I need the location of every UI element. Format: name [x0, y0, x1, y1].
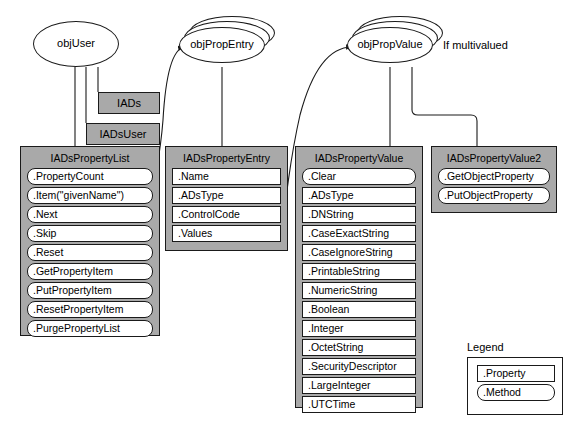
interface-title: IADsPropertyEntry — [172, 152, 281, 164]
interface-box-iadspropertylist[interactable]: IADsPropertyList .PropertyCount .Item("g… — [20, 146, 160, 336]
member-item[interactable]: .PurgePropertyList — [27, 320, 153, 337]
interface-title: IADsPropertyValue2 — [438, 152, 550, 164]
interface-title: IADsPropertyValue — [302, 152, 416, 164]
object-node-label: objPropEntry — [179, 38, 265, 50]
interface-box-iadspropertyvalue[interactable]: IADsPropertyValue .Clear .ADsType .DNStr… — [295, 146, 423, 408]
object-node-objuser[interactable]: objUser — [33, 21, 119, 67]
member-item[interactable]: .DNString — [302, 206, 416, 223]
member-item[interactable]: .Name — [172, 168, 281, 185]
interface-box-iadspropertyentry[interactable]: IADsPropertyEntry .Name .ADsType .Contro… — [165, 146, 288, 251]
member-item[interactable]: .ADsType — [302, 187, 416, 204]
legend-item-property: .Property — [477, 365, 555, 382]
member-item[interactable]: .PropertyCount — [27, 168, 153, 185]
member-item[interactable]: .Next — [27, 206, 153, 223]
member-item[interactable]: .Integer — [302, 320, 416, 337]
member-item[interactable]: .GetObjectProperty — [438, 168, 550, 185]
member-item[interactable]: .ADsType — [172, 187, 281, 204]
member-item[interactable]: .GetPropertyItem — [27, 263, 153, 280]
member-item[interactable]: .PrintableString — [302, 263, 416, 280]
member-item[interactable]: .Item("givenName") — [27, 187, 153, 204]
diagram-canvas: objUser objPropEntry objPropValue If mul… — [0, 0, 570, 428]
member-item[interactable]: .PutObjectProperty — [438, 187, 550, 204]
member-item[interactable]: .ControlCode — [172, 206, 281, 223]
member-item[interactable]: .CaseExactString — [302, 225, 416, 242]
member-item[interactable]: .ResetPropertyItem — [27, 301, 153, 318]
interface-box-label: IADs — [117, 97, 141, 109]
member-item[interactable]: .UTCTime — [302, 396, 416, 413]
interface-box-iads[interactable]: IADs — [98, 92, 160, 114]
member-item[interactable]: .Values — [172, 225, 281, 242]
member-item[interactable]: .SecurityDescriptor — [302, 358, 416, 375]
member-item[interactable]: .PutPropertyItem — [27, 282, 153, 299]
interface-box-label: IADsUser — [99, 128, 146, 140]
object-node-objpropvalue[interactable]: objPropValue — [347, 16, 443, 67]
legend-box: .Property .Method — [467, 357, 563, 415]
member-item[interactable]: .LargeInteger — [302, 377, 416, 394]
interface-box-iadsuser[interactable]: IADsUser — [86, 123, 160, 145]
member-item[interactable]: .Clear — [302, 168, 416, 185]
member-item[interactable]: .CaseIgnoreString — [302, 244, 416, 261]
member-item[interactable]: .Boolean — [302, 301, 416, 318]
member-item[interactable]: .NumericString — [302, 282, 416, 299]
interface-title: IADsPropertyList — [27, 152, 153, 164]
interface-box-iadspropertyvalue2[interactable]: IADsPropertyValue2 .GetObjectProperty .P… — [431, 146, 557, 213]
legend-title: Legend — [467, 341, 504, 353]
legend-item-method: .Method — [477, 384, 555, 401]
member-item[interactable]: .Reset — [27, 244, 153, 261]
object-node-label: objUser — [33, 37, 119, 49]
object-node-label: objPropValue — [347, 38, 433, 50]
multivalued-note: If multivalued — [443, 39, 508, 51]
member-item[interactable]: .Skip — [27, 225, 153, 242]
object-node-objpropentry[interactable]: objPropEntry — [179, 16, 275, 67]
member-item[interactable]: .OctetString — [302, 339, 416, 356]
wire-objpropvalue-propertyvalue2 — [412, 67, 477, 146]
